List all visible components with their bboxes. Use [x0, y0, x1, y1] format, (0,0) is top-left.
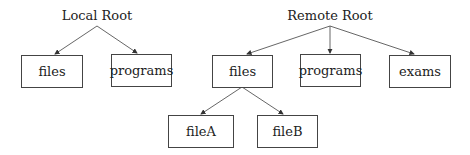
file-b-node: fileB: [257, 115, 318, 148]
file-b-label: fileB: [272, 124, 302, 139]
remote-programs-node: programs: [300, 54, 361, 87]
edge-remote-root-files: [247, 26, 330, 54]
local-programs-node: programs: [111, 54, 172, 87]
remote-files-label: files: [229, 64, 256, 79]
edge-files-filea: [201, 87, 242, 114]
remote-root-label: Remote Root: [287, 8, 372, 23]
edge-local-root-files: [55, 26, 97, 54]
local-root-label: Local Root: [62, 8, 132, 23]
edge-files-fileb: [242, 87, 283, 114]
local-programs-label: programs: [110, 63, 174, 78]
remote-files-node: files: [212, 55, 273, 88]
file-a-label: fileA: [186, 124, 216, 139]
remote-exams-node: exams: [389, 55, 451, 88]
edge-remote-root-exams: [330, 26, 414, 54]
local-files-label: files: [38, 64, 65, 79]
file-a-node: fileA: [168, 115, 234, 148]
local-files-node: files: [21, 55, 83, 88]
remote-programs-label: programs: [299, 63, 363, 78]
edge-local-root-programs: [97, 26, 137, 53]
remote-exams-label: exams: [399, 64, 441, 79]
